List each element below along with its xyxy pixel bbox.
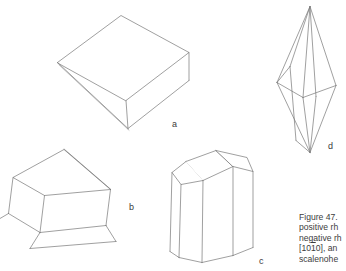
caption-miller-prefix: [10 (299, 243, 311, 253)
caption-miller-suffix: 0], an (316, 243, 338, 253)
shape-label-b: b (129, 203, 134, 212)
shape-d-scalenohedron (277, 7, 336, 153)
shape-label-a: a (172, 120, 177, 129)
caption-line-3: negative rh (299, 233, 346, 243)
shape-label-d: d (328, 142, 333, 151)
shape-label-c: c (259, 257, 264, 266)
figure-caption: Figure 47. positive rh negative rh [1010… (299, 212, 346, 264)
shape-c-hexagonal-prism (170, 151, 253, 263)
caption-line-1: Figure 47. (299, 212, 346, 222)
caption-line-2: positive rh (299, 222, 346, 232)
shape-b-negative-rhombohedron (0, 150, 116, 249)
caption-line-5: scalenohe (299, 254, 346, 264)
shape-a-positive-rhombohedron (58, 16, 190, 131)
caption-line-4: [1010], an (299, 243, 346, 253)
